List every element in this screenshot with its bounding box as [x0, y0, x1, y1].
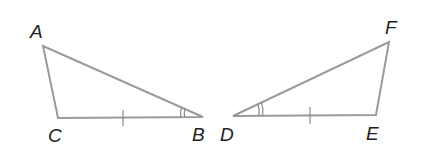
- vertex-label-d: D: [220, 124, 234, 145]
- diagram-svg: A C B D E F: [0, 0, 422, 157]
- vertex-label-c: C: [48, 125, 62, 146]
- congruent-triangles-diagram: A C B D E F: [0, 0, 422, 157]
- vertex-label-f: F: [385, 17, 398, 38]
- triangle-abc: [43, 46, 203, 118]
- vertex-label-e: E: [366, 123, 379, 144]
- vertex-label-b: B: [192, 124, 205, 145]
- angle-arc-d-inner: [262, 103, 263, 117]
- vertex-label-a: A: [29, 21, 43, 42]
- angle-arc-b-outer: [181, 107, 182, 118]
- triangle-def: [233, 42, 389, 116]
- angle-arc-d-outer: [258, 105, 259, 117]
- angle-arc-b-inner: [184, 109, 185, 118]
